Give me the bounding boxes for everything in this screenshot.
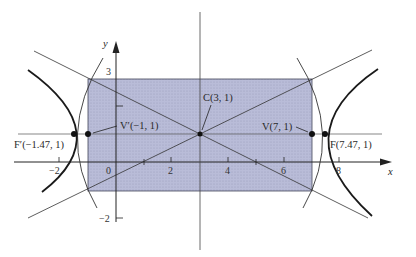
x-tick-8: 8: [336, 165, 341, 176]
vertex-right-label: V(7, 1): [262, 121, 293, 133]
focus-left-point: [71, 131, 77, 137]
x-tick-4: 4: [225, 165, 230, 176]
x-axis-label: x: [387, 166, 393, 177]
y-axis-label: y: [102, 38, 108, 49]
x-tick-2: 2: [168, 165, 173, 176]
center-label: C(3, 1): [203, 92, 233, 104]
vertex-right-point: [309, 131, 315, 137]
focus-right-point: [322, 131, 328, 137]
focus-right-label: F(7.47, 1): [330, 139, 372, 151]
y-tick-3: 3: [106, 66, 111, 77]
x-tick-6: 6: [281, 165, 286, 176]
vertex-left-label: V′(−1, 1): [120, 120, 159, 132]
center-point: [198, 132, 203, 137]
vertex-left-point: [85, 131, 91, 137]
x-axis-arrow-icon: [380, 159, 392, 166]
focus-left-label: F′(−1.47, 1): [14, 139, 64, 151]
hyperbola-diagram: C(3, 1) V′(−1, 1) V(7, 1) F(7.47, 1) F′(…: [0, 0, 416, 257]
x-tick-0: 0: [106, 165, 111, 176]
y-tick-neg2: −2: [99, 213, 110, 224]
y-axis-arrow-icon: [113, 41, 120, 53]
x-tick-neg2: −2: [49, 165, 60, 176]
